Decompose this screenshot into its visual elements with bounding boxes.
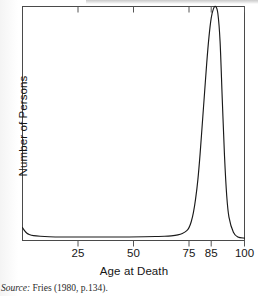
x-tick-label-85: 85	[205, 247, 218, 259]
y-axis-title: Number of Persons	[17, 56, 29, 196]
source-label: Source:	[1, 283, 30, 293]
source-reference: Fries (1980, p.134).	[33, 283, 108, 293]
x-axis-title: Age at Death	[22, 265, 246, 277]
x-tick-label-50: 50	[127, 247, 140, 259]
source-caption: Source: Fries (1980, p.134).	[1, 283, 108, 293]
x-tick-label-75: 75	[183, 247, 196, 259]
x-tick-label-100: 100	[235, 247, 254, 259]
x-tick-label-25: 25	[72, 247, 85, 259]
plot-frame	[23, 7, 245, 241]
x-axis-ticks-bottom	[78, 241, 245, 247]
mortality-distribution-figure: Number of Persons Age at Death 255075851…	[0, 0, 258, 296]
